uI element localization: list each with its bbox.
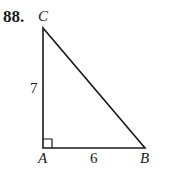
right-triangle-figure: [0, 0, 173, 172]
side-label-ab: 6: [90, 150, 98, 167]
vertex-label-c: C: [38, 8, 48, 25]
vertex-label-b: B: [140, 150, 149, 167]
right-angle-marker: [43, 139, 52, 148]
triangle-outline: [43, 28, 145, 148]
vertex-label-a: A: [38, 150, 47, 167]
side-label-ac: 7: [30, 80, 38, 97]
